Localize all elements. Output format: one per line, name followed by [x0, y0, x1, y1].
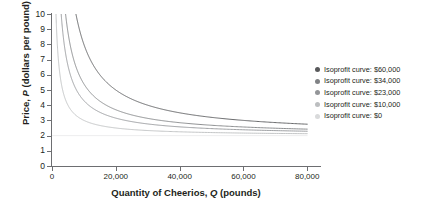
legend-item[interactable]: Isoprofit curve: $23,000 — [315, 87, 423, 99]
legend-item[interactable]: Isoprofit curve: $34,000 — [315, 76, 423, 88]
isoprofit-curves-chart: Price, P (dollars per pound) 01234567891… — [0, 0, 424, 218]
x-tick-label: 40,000 — [167, 173, 191, 181]
y-tick-label: 6 — [25, 70, 45, 79]
x-tick-label: 20,000 — [104, 173, 128, 181]
y-tick-label: 1 — [25, 146, 45, 155]
x-axis-title: Quantity of Cheerios, Q (pounds) — [52, 188, 320, 198]
y-tick-label: 8 — [25, 40, 45, 49]
x-tick-mark — [180, 167, 181, 171]
y-tick-label: 3 — [25, 116, 45, 125]
x-tick-mark — [116, 167, 117, 171]
x-tick-mark — [52, 167, 53, 171]
legend-item[interactable]: Isoprofit curve: $60,000 — [315, 64, 423, 76]
x-axis-title-pre: Quantity of Cheerios, — [111, 187, 210, 198]
legend-label: Isoprofit curve: $0 — [324, 112, 382, 120]
x-axis-title-post: (pounds) — [217, 187, 260, 198]
legend-swatch-icon — [315, 67, 320, 72]
y-tick-label: 7 — [25, 55, 45, 64]
plot-area — [52, 14, 320, 166]
legend: Isoprofit curve: $60,000Isoprofit curve:… — [315, 64, 423, 122]
isoprofit-curve — [66, 14, 308, 129]
y-tick-label: 5 — [25, 86, 45, 95]
x-tick-label: 0 — [50, 173, 54, 181]
x-tick-label: 80,000 — [295, 173, 319, 181]
y-tick-label: 2 — [25, 131, 45, 140]
x-tick-label: 60,000 — [231, 173, 255, 181]
isoprofit-curve — [56, 14, 307, 134]
x-tick-mark — [243, 167, 244, 171]
y-tick-label: 9 — [25, 25, 45, 34]
legend-label: Isoprofit curve: $23,000 — [324, 89, 400, 97]
legend-swatch-icon — [315, 90, 320, 95]
legend-label: Isoprofit curve: $34,000 — [324, 77, 400, 85]
legend-label: Isoprofit curve: $10,000 — [324, 101, 400, 109]
legend-swatch-icon — [315, 79, 320, 84]
isoprofit-curves-svg — [52, 14, 320, 166]
x-tick-mark — [307, 167, 308, 171]
legend-item[interactable]: Isoprofit curve: $10,000 — [315, 99, 423, 111]
legend-swatch-icon — [315, 114, 320, 119]
y-tick-label: 4 — [25, 101, 45, 110]
y-axis-tick-labels: 012345678910 — [22, 0, 45, 218]
legend-label: Isoprofit curve: $60,000 — [324, 66, 400, 74]
x-axis-line — [51, 166, 321, 167]
y-tick-label: 10 — [25, 10, 45, 19]
legend-item[interactable]: Isoprofit curve: $0 — [315, 110, 423, 122]
legend-swatch-icon — [315, 102, 320, 107]
y-tick-label: 0 — [25, 162, 45, 171]
